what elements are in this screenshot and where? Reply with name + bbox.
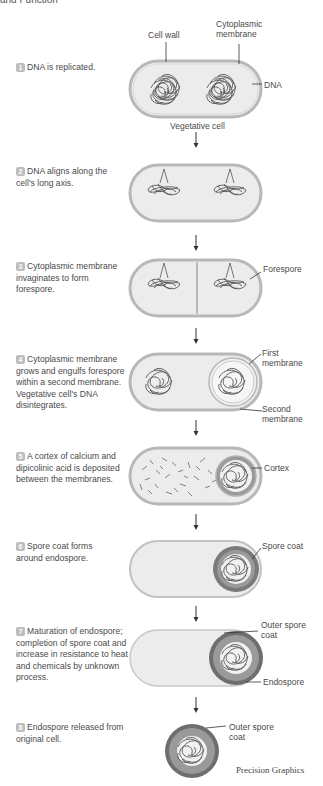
spore-coat-cell <box>130 541 261 597</box>
label-dna: DNA <box>264 80 282 90</box>
label-spore-coat: Spore coat <box>262 541 303 551</box>
label-forespore: Forespore <box>263 264 302 274</box>
maturing-endospore-cell <box>130 630 263 686</box>
label-outer-spore-coat-released: Outer spore coat <box>229 722 279 742</box>
label-cell-wall: Cell wall <box>148 30 180 40</box>
cortex-cell <box>130 448 262 504</box>
label-first-membrane: First membrane <box>262 348 312 368</box>
label-cortex: Cortex <box>264 463 289 473</box>
label-outer-spore-coat: Outer spore coat <box>261 620 311 640</box>
vegetative-cell <box>130 42 262 117</box>
label-second-membrane: Second membrane <box>262 404 312 424</box>
credit: Precision Graphics <box>236 765 304 775</box>
label-endospore: Endospore <box>263 677 304 687</box>
label-vegetative-cell: Vegetative cell <box>170 121 225 131</box>
engulfment-cell <box>130 354 262 411</box>
label-cytoplasmic-membrane: Cytoplasmic membrane <box>216 19 276 39</box>
sporulation-diagram <box>0 0 323 786</box>
forespore-forming-cell <box>130 260 261 316</box>
released-endospore <box>165 724 226 778</box>
dna-aligned-cell <box>130 165 261 221</box>
